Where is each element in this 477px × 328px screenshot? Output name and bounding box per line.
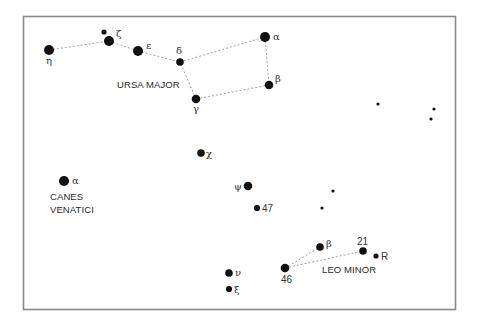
star-field-f1 <box>376 102 379 105</box>
star-field-f2 <box>432 107 435 110</box>
star-label-ursa-major-zeta: ζ <box>116 28 122 39</box>
star-ursa-major-beta <box>265 81 274 90</box>
star-ursa-major-eta <box>44 45 54 55</box>
star-label-field-nu: ν <box>235 267 241 278</box>
star-field-nu <box>225 269 233 277</box>
constellation-line-ursa-major-delta-alpha <box>180 37 265 62</box>
star-field-chi <box>197 149 205 157</box>
constellation-line-ursa-major-beta-gamma <box>196 85 269 99</box>
star-label-ursa-major-alpha: α <box>273 31 280 42</box>
constellation-name-canes-venatici-line2: VENATICI <box>50 204 94 215</box>
chart-frame <box>24 17 456 310</box>
star-ursa-major-epsilon <box>133 46 143 56</box>
star-label-ursa-major-delta: δ <box>176 45 182 56</box>
star-label-field-47: 47 <box>262 203 274 214</box>
constellation-line-ursa-major-eta-zeta <box>49 41 109 50</box>
star-label-ursa-major-eta: η <box>46 55 52 66</box>
star-ursa-major-gamma <box>192 95 201 104</box>
star-field-47 <box>254 205 260 211</box>
star-label-leo-minor-R: R <box>381 251 388 262</box>
star-field-psi <box>244 182 253 191</box>
star-leo-minor-21 <box>359 247 367 255</box>
star-field-f5 <box>320 206 323 209</box>
constellation-line-ursa-major-alpha-beta <box>265 37 269 85</box>
star-leo-minor-beta <box>316 243 324 251</box>
star-label-ursa-major-beta: β <box>275 73 281 84</box>
star-label-leo-minor-beta: β <box>326 238 332 249</box>
constellation-name-canes-venatici-line1: CANES <box>50 191 83 202</box>
stars <box>44 29 436 292</box>
star-canes-venatici-alpha <box>59 176 69 186</box>
star-ursa-major-zeta <box>104 36 114 46</box>
star-label-leo-minor-46: 46 <box>281 274 293 285</box>
constellation-line-ursa-major-gamma-delta <box>180 62 196 99</box>
star-label-ursa-major-epsilon: ε <box>146 40 151 51</box>
star-field-xi <box>226 286 232 292</box>
star-label-field-xi: ξ <box>234 284 240 295</box>
star-label-field-chi: χ <box>206 148 212 159</box>
star-leo-minor-R <box>373 253 378 258</box>
star-label-ursa-major-gamma: γ <box>193 103 199 114</box>
star-ursa-major-delta <box>176 58 184 66</box>
star-field-f4 <box>331 189 334 192</box>
star-ursa-major-alpha <box>260 32 270 42</box>
constellation-name-leo-minor: LEO MINOR <box>322 264 376 275</box>
star-label-field-psi: ψ <box>234 181 242 192</box>
star-leo-minor-46 <box>281 264 290 273</box>
star-labels: ηζεδαβγα46β21Rχψ47νξ <box>46 28 388 295</box>
star-label-canes-venatici-alpha: α <box>72 175 79 186</box>
star-ursa-major-zeta-companion <box>101 29 106 34</box>
constellation-name-ursa-major: URSA MAJOR <box>117 79 180 90</box>
constellation-line-ursa-major-epsilon-delta <box>138 51 180 62</box>
star-chart: ηζεδαβγα46β21Rχψ47νξ URSA MAJOR CANES VE… <box>0 0 477 328</box>
constellation-line-leo-minor-46-beta <box>285 247 320 268</box>
star-label-leo-minor-21: 21 <box>357 236 369 247</box>
star-field-f3 <box>429 117 432 120</box>
